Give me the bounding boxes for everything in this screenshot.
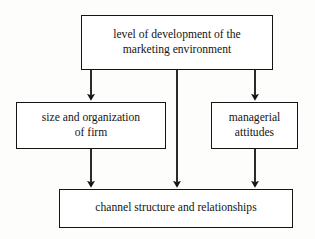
node-managerial-attitudes: managerial attitudes — [211, 102, 298, 149]
node-level-of-development: level of development of the marketing en… — [81, 15, 273, 70]
node-label: level of development of the marketing en… — [109, 28, 245, 57]
node-label: managerial attitudes — [225, 111, 285, 140]
flowchart-diagram: level of development of the marketing en… — [0, 0, 315, 239]
node-label: channel structure and relationships — [91, 201, 260, 215]
node-label: size and organization of firm — [38, 111, 144, 140]
node-size-and-organization-of-firm: size and organization of firm — [16, 102, 166, 149]
node-channel-structure-and-relationships: channel structure and relationships — [59, 189, 293, 228]
